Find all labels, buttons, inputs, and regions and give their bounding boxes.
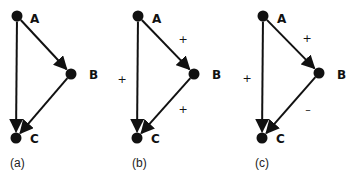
edge-a-b <box>21 20 67 69</box>
panel-caption: (b) <box>132 156 147 170</box>
edge-b-c <box>20 78 67 133</box>
node-a <box>258 11 269 22</box>
node-b <box>189 69 200 80</box>
node-c <box>132 133 143 144</box>
node-a <box>133 11 144 22</box>
node-label-b: B <box>89 68 98 82</box>
node-label-c: C <box>151 132 160 146</box>
panel-b: +++ABC(b) <box>117 11 221 171</box>
node-label-a: A <box>152 12 162 26</box>
node-label-c: C <box>276 132 285 146</box>
node-label-c: C <box>30 132 39 146</box>
node-a <box>12 11 23 22</box>
panel-caption: (c) <box>255 156 269 170</box>
edge-sign-a-b: + <box>178 33 187 46</box>
node-c <box>257 133 268 144</box>
panel-caption: (a) <box>10 156 25 170</box>
edge-a-c <box>262 21 263 131</box>
edge-sign-b-c: – <box>305 103 311 116</box>
edge-a-c <box>16 21 17 131</box>
causal-diagram: ABC(a)+++ABC(b)+–+ABC(c) <box>0 0 355 180</box>
node-b <box>314 68 325 79</box>
edge-a-c <box>137 21 138 131</box>
node-c <box>11 133 22 144</box>
panel-c: +–+ABC(c) <box>242 11 346 171</box>
node-label-b: B <box>212 68 221 82</box>
panel-a: ABC(a) <box>10 11 98 171</box>
node-label-b: B <box>337 68 346 82</box>
node-b <box>66 69 77 80</box>
edge-sign-a-b: + <box>302 32 311 45</box>
edge-sign-a-c: + <box>117 73 126 86</box>
node-label-a: A <box>277 12 287 26</box>
edge-sign-a-c: + <box>242 72 251 85</box>
edge-sign-b-c: + <box>178 103 187 116</box>
node-label-a: A <box>30 12 40 26</box>
